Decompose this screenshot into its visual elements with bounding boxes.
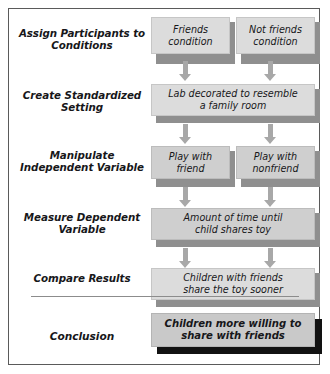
stage-label-setting-line2: Setting <box>61 101 103 113</box>
stage-label-conclusion-line1: Conclusion <box>50 330 114 342</box>
arrow-notfriends-to-lab-icon <box>264 61 277 81</box>
arrow-lab-to-playnonfriend-icon <box>264 124 277 144</box>
box-conclusion: Children more willing to share with frie… <box>151 313 315 347</box>
stage-label-assign-line1: Assign Participants <box>19 27 130 39</box>
stage-label-assign: Assign Participants to Conditions <box>13 27 151 52</box>
box-play-nonfriend: Play with nonfriend <box>236 146 315 179</box>
not-friends-condition-line1: Not friends <box>249 24 302 36</box>
arrow-measure-to-compare-left-icon <box>179 248 192 268</box>
arrow-measure-to-compare-right-icon <box>264 248 277 268</box>
stage-label-measure: Measure Dependent Variable <box>13 211 151 236</box>
stage-label-setting: Create Standardized Setting <box>13 89 151 114</box>
arrow-playfriend-to-measure-icon <box>179 187 192 207</box>
stage-label-compare: Compare Results <box>13 272 151 284</box>
conclusion-line1: Children more willing to <box>165 318 302 330</box>
box-measure-time: Amount of time until child shares toy <box>151 208 315 240</box>
stage-label-compare-line2: Results <box>88 272 130 284</box>
conclusion-line2: share with friends <box>165 330 302 342</box>
stage-label-manipulate-line1: Manipulate <box>50 149 115 161</box>
compare-result-line2: share the toy sooner <box>183 284 283 296</box>
lab-setting-line2: a family room <box>168 100 298 112</box>
section-divider <box>31 296 299 297</box>
compare-result-line1: Children with friends <box>183 272 283 284</box>
play-friend-line2: friend <box>169 163 212 175</box>
arrow-friends-to-lab-icon <box>179 61 192 81</box>
arrow-lab-to-playfriend-icon <box>179 124 192 144</box>
stage-label-setting-line1: Create Standardized <box>23 89 141 101</box>
play-nonfriend-line1: Play with <box>252 151 298 163</box>
play-friend-line1: Play with <box>169 151 212 163</box>
play-nonfriend-line2: nonfriend <box>252 163 298 175</box>
not-friends-condition-line2: condition <box>249 36 302 48</box>
measure-time-line1: Amount of time until <box>183 212 282 224</box>
box-not-friends-condition: Not friends condition <box>236 17 315 54</box>
friends-condition-line1: Friends <box>168 24 212 36</box>
flowchart-frame: Assign Participants to Conditions Friend… <box>8 8 320 365</box>
box-play-friend: Play with friend <box>151 146 230 179</box>
stage-label-manipulate-line2: Independent Variable <box>20 161 144 173</box>
friends-condition-line2: condition <box>168 36 212 48</box>
arrow-playnonfriend-to-measure-icon <box>264 187 277 207</box>
stage-label-manipulate: Manipulate Independent Variable <box>13 149 151 174</box>
box-friends-condition: Friends condition <box>151 17 230 54</box>
stage-label-conclusion: Conclusion <box>13 330 151 342</box>
lab-setting-line1: Lab decorated to resemble <box>168 88 298 100</box>
stage-label-compare-line1: Compare <box>33 272 84 284</box>
box-lab-setting: Lab decorated to resemble a family room <box>151 84 315 116</box>
stage-label-measure-line1: Measure <box>24 211 73 223</box>
measure-time-line2: child shares toy <box>183 224 282 236</box>
